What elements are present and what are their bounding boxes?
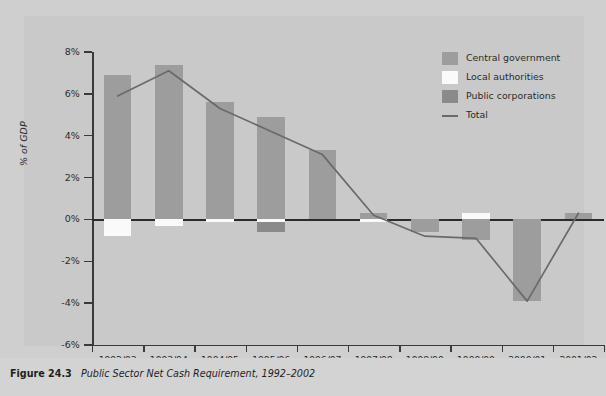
figure-container: % of GDP 8%6%4%2%0%-2%-4%-6% 1992/931993… [0,0,606,396]
legend-item: Total [442,107,602,126]
x-tick [246,345,247,352]
caption-band: Figure 24.3 Public Sector Net Cash Requi… [0,358,606,396]
x-tick [553,345,554,352]
figure-title: Public Sector Net Cash Requirement, 1992… [81,368,315,379]
x-tick [502,345,503,352]
legend-label: Public corporations [466,90,556,101]
x-tick [194,345,195,352]
figure-number: Figure 24.3 [10,368,72,379]
x-tick [348,345,349,352]
x-tick [604,345,605,352]
legend-item: Public corporations [442,88,602,107]
legend-label: Local authorities [466,71,544,82]
x-tick [297,345,298,352]
x-tick [450,345,451,352]
chart-panel: % of GDP 8%6%4%2%0%-2%-4%-6% 1992/931993… [0,0,606,358]
legend-swatch-icon [442,90,458,103]
legend-swatch-icon [442,71,458,84]
x-tick [399,345,400,352]
figure-caption: Figure 24.3 Public Sector Net Cash Requi… [10,368,315,379]
legend-label: Total [466,109,488,120]
legend-item: Central government [442,50,602,69]
x-tick [92,345,93,352]
legend-label: Central government [466,52,560,63]
chart-legend: Central governmentLocal authoritiesPubli… [442,50,602,126]
legend-item: Local authorities [442,69,602,88]
legend-line-icon [442,115,458,117]
legend-swatch-icon [442,52,458,65]
plot-area: % of GDP 8%6%4%2%0%-2%-4%-6% 1992/931993… [24,16,584,346]
x-tick [143,345,144,352]
